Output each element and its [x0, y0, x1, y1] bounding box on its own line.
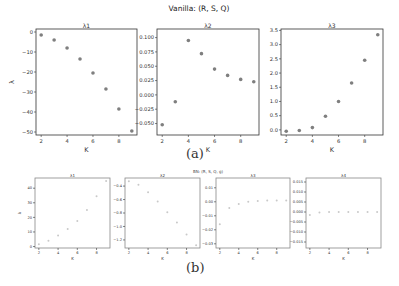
x-tick-label: 4	[311, 138, 315, 144]
y-tick-label: 0.015	[293, 180, 303, 184]
y-tick-label: −50	[22, 129, 33, 135]
x-axis-label: K	[330, 146, 335, 154]
x-tick-label: 2	[38, 251, 40, 255]
data-point	[239, 78, 243, 82]
x-tick-label: 6	[91, 138, 94, 144]
y-tick-label: 0.025	[139, 77, 154, 83]
x-tick-label: 2	[309, 251, 311, 255]
data-point	[160, 123, 164, 127]
data-point	[96, 195, 98, 197]
data-point	[57, 235, 59, 237]
data-point	[228, 207, 230, 209]
y-tick-label: 0.000	[139, 92, 154, 98]
data-point	[257, 200, 259, 202]
y-tick-label: −0.8	[113, 211, 122, 215]
y-axis-label: λ	[8, 80, 16, 84]
x-axis-label: K	[84, 146, 89, 154]
group-title-bn: BN: (R, S, Q, g)	[193, 169, 224, 174]
subplot-title: λ1	[83, 22, 91, 29]
data-point	[47, 240, 49, 242]
data-point	[176, 221, 178, 223]
data-point	[363, 58, 367, 62]
data-point	[328, 211, 330, 213]
subplot-title: λ4	[341, 173, 346, 178]
y-tick-label: −0.01	[202, 214, 213, 218]
y-tick-label: −1.2	[113, 238, 122, 242]
data-point	[367, 211, 369, 213]
x-tick-label: 4	[187, 138, 191, 144]
y-tick-label: 0.100	[139, 34, 154, 40]
data-point	[318, 211, 320, 213]
data-point	[76, 220, 78, 222]
y-tick-label: −0.050	[135, 120, 154, 126]
x-tick-label: 4	[238, 251, 241, 255]
x-tick-label: 8	[185, 251, 188, 255]
data-point	[65, 46, 69, 50]
subplot-title: λ2	[204, 22, 212, 29]
y-tick-label: 0.005	[293, 200, 303, 204]
plot-frame	[36, 29, 137, 135]
y-axis-label: λ	[17, 211, 22, 214]
data-point	[174, 100, 178, 104]
x-tick-label: 8	[239, 138, 242, 144]
y-tick-label: 0.01	[205, 186, 213, 190]
data-point	[187, 39, 191, 43]
x-tick-label: 4	[65, 138, 69, 144]
data-point	[166, 211, 168, 213]
x-axis-label: K	[342, 256, 345, 261]
x-axis-label: K	[161, 256, 164, 261]
data-point	[52, 38, 56, 42]
data-point	[157, 201, 159, 203]
y-tick-label: −1.0	[113, 225, 122, 229]
data-point	[309, 214, 311, 216]
data-point	[247, 201, 249, 203]
y-tick-label: 20	[27, 216, 32, 220]
y-tick-label: 0.010	[293, 190, 304, 194]
data-point	[195, 244, 197, 246]
data-point	[324, 114, 328, 118]
data-point	[311, 126, 315, 130]
data-point	[86, 209, 88, 211]
data-point	[186, 234, 188, 236]
x-tick-label: 6	[76, 251, 79, 255]
y-tick-label: 0	[30, 245, 33, 249]
plot-frame	[281, 29, 383, 135]
y-tick-label: −30	[22, 89, 33, 95]
x-tick-label: 8	[117, 138, 120, 144]
y-tick-label: −0.02	[202, 228, 213, 232]
data-point	[276, 199, 278, 201]
y-tick-label: −20	[22, 69, 33, 75]
y-tick-label: 0.000	[293, 210, 304, 214]
x-tick-label: 8	[276, 251, 279, 255]
subplot-title: λ1	[70, 173, 75, 178]
y-tick-label: 3.0	[270, 41, 278, 47]
y-tick-label: 3.5	[270, 27, 278, 33]
y-tick-label: 0.075	[139, 49, 154, 55]
y-tick-label: 0.00	[205, 200, 214, 204]
data-point	[238, 203, 240, 205]
y-tick-label: 0.0	[270, 127, 278, 133]
plot-frame	[35, 178, 110, 248]
y-tick-label: −10	[22, 49, 33, 55]
data-point	[105, 180, 107, 182]
x-tick-label: 2	[128, 251, 130, 255]
y-tick-label: 0.050	[139, 63, 154, 69]
y-tick-label: −0.6	[113, 198, 122, 202]
x-axis-label: K	[252, 256, 255, 261]
caption-b: (b)	[186, 260, 204, 275]
y-tick-label: 30	[27, 201, 32, 205]
group-title-vanilla: Vanilla: (R, S, Q)	[169, 4, 230, 13]
y-tick-label: −0.015	[290, 240, 303, 244]
x-tick-label: 2	[285, 138, 288, 144]
subplot-title: λ3	[251, 173, 256, 178]
plot-frame	[216, 178, 290, 248]
x-axis-label: K	[71, 256, 74, 261]
y-tick-label: 1.0	[270, 98, 278, 104]
data-point	[38, 243, 40, 245]
x-tick-label: 2	[219, 251, 221, 255]
y-tick-label: −0.03	[202, 242, 213, 246]
y-tick-label: 0	[30, 29, 33, 35]
data-point	[266, 199, 268, 201]
caption-a: (a)	[186, 146, 204, 161]
x-tick-label: 6	[337, 138, 340, 144]
